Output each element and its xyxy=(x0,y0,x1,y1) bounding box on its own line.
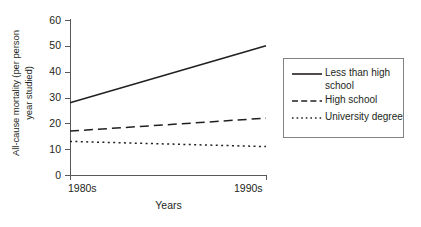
legend: Less than high school High school Univer… xyxy=(283,58,404,138)
x-axis-tick: 1980s xyxy=(70,175,71,180)
series-line xyxy=(70,46,266,103)
y-axis-tick-label: 0 xyxy=(55,168,61,182)
y-axis-title: All-cause mortality (per person year stu… xyxy=(10,4,35,182)
dashed-line-icon xyxy=(292,95,322,107)
y-axis-tick-label: 30 xyxy=(49,90,61,104)
y-axis-tick-label: 60 xyxy=(49,13,61,27)
y-axis-tick-label: 40 xyxy=(49,64,61,78)
x-axis-title: Years xyxy=(70,199,267,211)
series-line xyxy=(70,141,266,146)
series-line xyxy=(70,118,266,131)
y-axis-title-container: All-cause mortality (per person year stu… xyxy=(0,0,44,190)
dotted-line-icon xyxy=(292,112,322,124)
series-lines xyxy=(70,20,266,175)
chart-figure: All-cause mortality (per person year stu… xyxy=(0,0,421,227)
y-axis-tick-label: 50 xyxy=(49,38,61,52)
plot-area: 0102030405060 1980s1990s xyxy=(70,20,266,175)
x-axis-tick: 1990s xyxy=(266,175,267,180)
legend-item-university-degree: University degree xyxy=(292,111,403,124)
legend-label: Less than high school xyxy=(325,67,403,92)
x-axis-tick-label: 1990s xyxy=(234,182,263,195)
legend-item-less-than-high-school: Less than high school xyxy=(292,67,403,92)
legend-label: University degree xyxy=(325,111,403,124)
legend-label: High school xyxy=(325,94,377,107)
x-axis-tick-label: 1980s xyxy=(68,182,97,195)
x-axis-line xyxy=(70,175,267,176)
y-axis-tick-label: 20 xyxy=(49,116,61,130)
solid-line-icon xyxy=(292,68,322,80)
legend-item-high-school: High school xyxy=(292,94,377,107)
y-axis-tick-label: 10 xyxy=(49,142,61,156)
